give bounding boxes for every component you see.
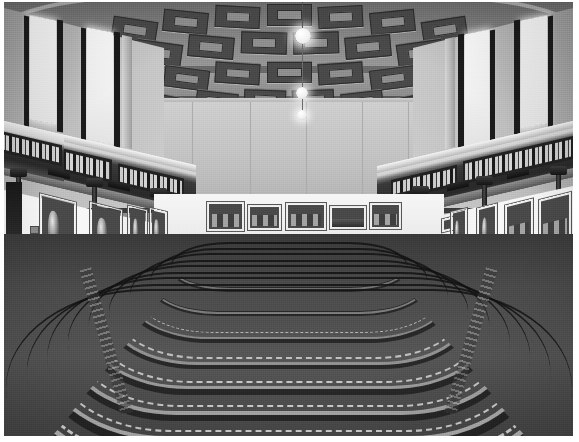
painting-far-5	[370, 203, 401, 229]
clerestory-window-left-2	[87, 27, 113, 144]
lamp-cord-1	[302, 2, 303, 28]
window-jamb	[548, 16, 553, 131]
window-jamb	[458, 33, 464, 152]
pendant-lamp-1	[295, 28, 311, 44]
balustrade-segment	[4, 131, 62, 166]
wall-pilaster	[122, 35, 132, 149]
ceiling-coffer	[240, 32, 286, 55]
ceiling-coffer	[162, 9, 209, 35]
ceiling-coffer	[188, 34, 235, 60]
clerestory-window-left-1	[30, 15, 56, 124]
ceiling-coffer	[267, 4, 312, 26]
ceiling-coffer	[267, 62, 312, 83]
ceiling-coffer	[215, 62, 262, 86]
lamp-cord-2	[302, 44, 303, 87]
painting-far-2	[248, 205, 281, 230]
ceiling-coffer	[369, 9, 416, 35]
painting-far-4	[330, 206, 366, 229]
window-jamb	[81, 28, 86, 147]
window-jamb	[57, 19, 63, 132]
ceiling-coffer	[344, 34, 391, 60]
painting-far-1	[207, 202, 244, 231]
clerestory-window-right-1	[521, 15, 547, 128]
window-jamb	[514, 19, 520, 134]
ceiling-coffer	[215, 5, 261, 29]
window-jamb	[114, 31, 120, 150]
window-jamb	[24, 16, 29, 129]
photograph-plate	[4, 2, 573, 436]
clerestory-window-right-2	[465, 30, 489, 147]
painting-far-3	[286, 203, 326, 230]
wall-switch-plate	[30, 226, 39, 234]
photograph-page: Interior of a Victorian lecture theatre …	[0, 0, 579, 442]
window-jamb	[490, 30, 495, 149]
ceiling-coffer	[318, 62, 365, 86]
tiered-seating	[4, 234, 573, 436]
pendant-lamp-2	[296, 87, 308, 99]
ceiling-coffer	[318, 5, 364, 29]
lamp-cord-3	[302, 99, 303, 110]
wall-pilaster	[445, 37, 455, 149]
pendant-lamp-3	[297, 110, 307, 120]
